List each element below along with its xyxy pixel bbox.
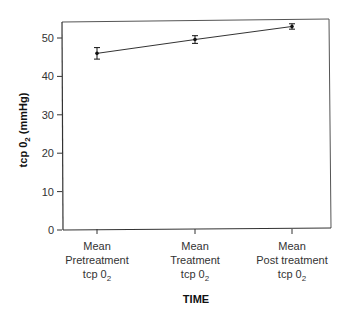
y-axis-ticks: 01020304050 [42, 32, 62, 236]
plot-area [62, 19, 331, 230]
x-axis-line [63, 228, 331, 230]
x-category-label: MeanTreatmenttcp 02 [170, 240, 220, 283]
point-marker [95, 52, 99, 56]
y-tick-label: 0 [48, 224, 54, 236]
x-axis-title: TIME [183, 293, 209, 305]
x-category-label: MeanPost treatmenttcp 02 [256, 240, 328, 283]
y-axis-line [62, 22, 63, 230]
x-category-labels: MeanPretreatmenttcp 02MeanTreatmenttcp 0… [65, 240, 328, 283]
point-marker [290, 25, 294, 29]
plot-frame-top [62, 19, 329, 22]
y-tick-label: 40 [42, 70, 54, 82]
y-tick-label: 30 [42, 109, 54, 121]
y-axis-title: tcp 02 (mmHg) [17, 92, 32, 167]
y-tick-label: 50 [42, 32, 54, 44]
plot-frame-right [329, 19, 331, 228]
x-category-label: MeanPretreatmenttcp 02 [65, 240, 129, 283]
y-tick-label: 20 [42, 147, 54, 159]
y-tick-label: 10 [42, 186, 54, 198]
point-marker [193, 38, 197, 42]
data-series [94, 24, 295, 59]
line-chart: 01020304050 MeanPretreatmenttcp 02MeanTr… [0, 0, 349, 314]
